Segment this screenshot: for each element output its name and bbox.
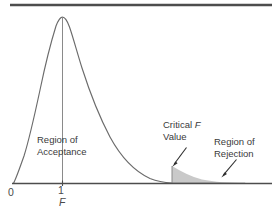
label-critical-f-value-variable: F — [195, 119, 201, 130]
label-region-of-rejection-line1: Region of — [214, 136, 255, 148]
label-region-of-rejection: Region of Rejection — [214, 136, 255, 159]
x-axis-tick-label-0: 0 — [8, 187, 14, 198]
label-region-of-acceptance-line2: Acceptance — [37, 146, 87, 158]
label-critical-f-value-line1: Critical F — [163, 119, 200, 131]
label-critical-f-value: Critical F Value — [163, 119, 200, 142]
region-of-rejection-arrow — [221, 160, 236, 178]
rejection-tail-shading — [172, 166, 245, 183]
f-distribution-plot — [0, 0, 278, 218]
label-critical-f-value-prefix: Critical — [163, 119, 195, 130]
f-distribution-curve — [14, 17, 246, 183]
x-axis-variable-label: F — [59, 197, 65, 208]
x-axis-tick-label-1: 1 — [58, 185, 64, 196]
label-region-of-acceptance: Region of Acceptance — [37, 134, 87, 157]
critical-f-value-arrow — [172, 148, 186, 167]
label-region-of-rejection-line2: Rejection — [214, 148, 255, 160]
label-critical-f-value-line2: Value — [163, 131, 200, 143]
label-region-of-acceptance-line1: Region of — [37, 134, 87, 146]
f-distribution-figure: Region of Acceptance Critical F Value Re… — [0, 0, 278, 218]
